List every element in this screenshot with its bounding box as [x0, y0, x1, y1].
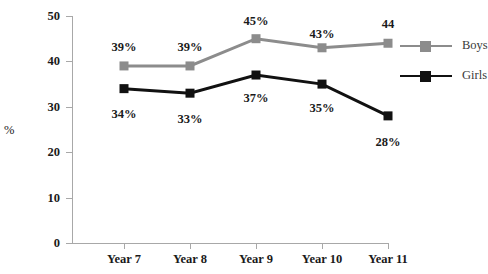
- data-point-boys-4: [384, 39, 393, 48]
- data-label-boys-year-10: 43%: [299, 27, 345, 42]
- legend-item-girls: Girls: [400, 68, 487, 83]
- legend-item-boys: Boys: [400, 38, 488, 53]
- data-label-boys-year-8: 39%: [167, 40, 213, 55]
- data-label-girls-year-10: 35%: [299, 101, 345, 116]
- data-label-girls-year-11: 28%: [365, 135, 411, 150]
- legend-label-girls: Girls: [462, 68, 487, 83]
- data-label-boys-year-9: 45%: [233, 14, 279, 29]
- legend-swatch-boys: [400, 39, 452, 53]
- data-label-girls-year-7: 34%: [101, 107, 147, 122]
- legend-label-boys: Boys: [462, 38, 488, 53]
- data-point-boys-1: [186, 61, 195, 70]
- legend-swatch-girls: [400, 69, 452, 83]
- data-label-boys-year-11: 44: [365, 17, 411, 32]
- data-point-girls-1: [186, 89, 195, 98]
- data-point-boys-3: [318, 43, 327, 52]
- data-label-boys-year-7: 39%: [101, 40, 147, 55]
- data-point-girls-0: [120, 84, 129, 93]
- data-label-girls-year-9: 37%: [233, 91, 279, 106]
- data-point-girls-3: [318, 80, 327, 89]
- data-point-girls-2: [252, 71, 261, 80]
- data-point-girls-4: [384, 111, 393, 120]
- legend-marker-boys-icon: [420, 41, 431, 52]
- data-point-boys-2: [252, 34, 261, 43]
- data-point-boys-0: [120, 61, 129, 70]
- data-label-girls-year-8: 33%: [167, 112, 213, 127]
- legend-marker-girls-icon: [420, 71, 431, 82]
